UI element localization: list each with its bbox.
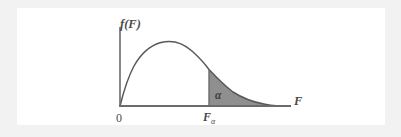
critical-value-symbol: F bbox=[203, 110, 211, 124]
f-distribution-plot bbox=[17, 8, 385, 125]
x-axis-label: F bbox=[294, 95, 302, 108]
origin-label: 0 bbox=[116, 112, 122, 124]
figure-panel: f(F) F 0 Fα α bbox=[17, 8, 385, 125]
tail-area-label: α bbox=[215, 90, 221, 102]
critical-value-subscript: α bbox=[211, 117, 215, 126]
y-axis-label: f(F) bbox=[120, 18, 141, 31]
figure-screenshot: f(F) F 0 Fα α bbox=[0, 0, 401, 137]
density-curve bbox=[120, 42, 276, 106]
critical-value-label: Fα bbox=[203, 111, 215, 126]
